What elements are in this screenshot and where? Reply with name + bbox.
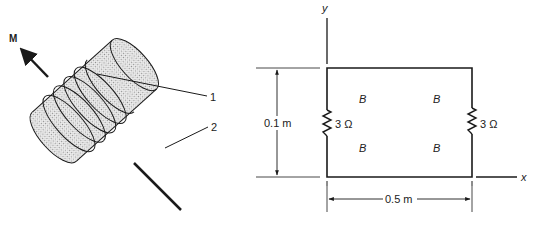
moment-arrow: [22, 50, 48, 77]
field-label-b: B: [359, 93, 366, 105]
cylinder-core: [20, 29, 168, 172]
resistor-left-label: 3 Ω: [335, 118, 352, 130]
y-axis-label: y: [321, 2, 329, 14]
resistor-right-label: 3 Ω: [480, 118, 497, 130]
callout-leader-2: [165, 127, 208, 148]
x-axis-label: x: [520, 171, 527, 183]
coil-cylinder-figure: M: [9, 29, 217, 210]
callout-label-2: 2: [211, 121, 217, 133]
resistor-right: 3 Ω: [468, 108, 497, 134]
callout-label-1: 1: [210, 91, 216, 103]
loop-circuit-figure: y x 3 Ω 3 Ω B B B B: [256, 2, 527, 212]
field-label-b: B: [359, 142, 366, 154]
field-label-b: B: [433, 142, 440, 154]
field-label-b: B: [433, 93, 440, 105]
width-dimension: 0.5 m: [327, 186, 472, 212]
shaft: [134, 163, 181, 210]
diagram-canvas: M: [0, 0, 542, 227]
resistor-left: 3 Ω: [323, 110, 352, 136]
width-dimension-label: 0.5 m: [385, 193, 413, 205]
height-dimension-label: 0.1 m: [264, 117, 292, 129]
moment-label: M: [9, 33, 17, 44]
height-dimension: 0.1 m: [256, 68, 320, 177]
